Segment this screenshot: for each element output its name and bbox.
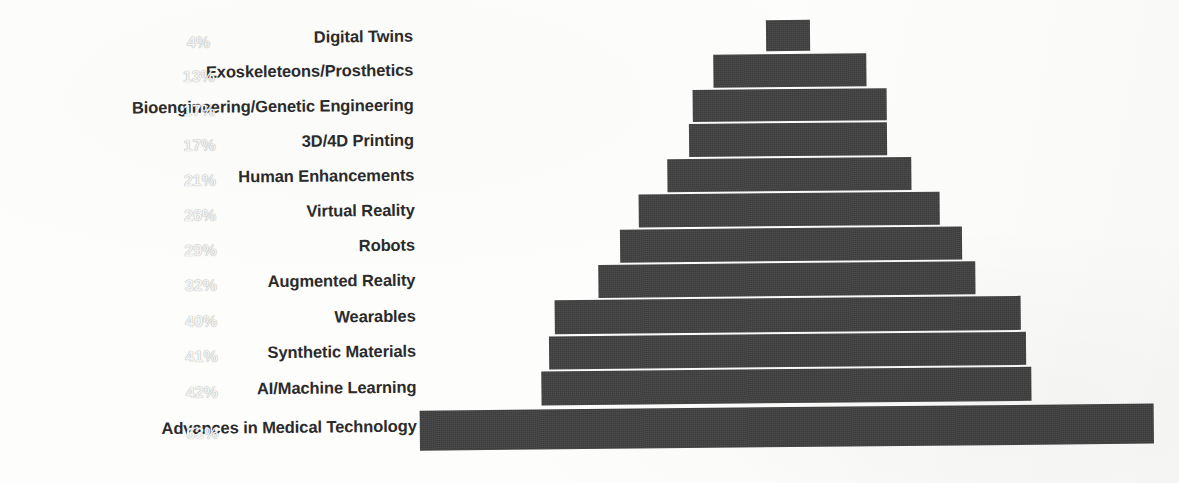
chart-canvas: Digital Twins Exoskeleteons/Prosthetics … bbox=[0, 0, 1179, 483]
category-label-augmented-reality: Augmented Reality bbox=[268, 272, 416, 290]
category-label-robots: Robots bbox=[359, 237, 415, 254]
bar-wearables bbox=[555, 296, 1021, 334]
bar-advances-medical-tech bbox=[420, 404, 1154, 451]
bar-augmented-reality bbox=[598, 261, 975, 298]
category-label-3d-4d-printing: 3D/4D Printing bbox=[302, 132, 414, 150]
category-label-human-enhancements: Human Enhancements bbox=[238, 167, 414, 185]
bar-robots bbox=[620, 226, 962, 262]
category-label-synthetic-materials: Synthetic Materials bbox=[267, 343, 416, 361]
bar-bioengineering bbox=[693, 88, 887, 122]
category-label-exoskeletons: Exoskeleteons/Prosthetics bbox=[206, 62, 414, 80]
category-label-digital-twins: Digital Twins bbox=[314, 28, 413, 45]
bar-3d-4d-printing bbox=[689, 122, 887, 157]
pyramid-chart: Digital Twins Exoskeleteons/Prosthetics … bbox=[0, 0, 1179, 483]
category-label-wearables: Wearables bbox=[334, 308, 415, 325]
category-label-virtual-reality: Virtual Reality bbox=[306, 202, 414, 220]
category-label-bioengineering: Bioengineering/Genetic Engineering bbox=[132, 97, 414, 116]
category-label-ai-machine-learning: AI/Machine Learning bbox=[257, 379, 417, 397]
bar-virtual-reality bbox=[639, 192, 940, 228]
bar-exoskeletons bbox=[713, 53, 866, 87]
bar-synthetic-materials bbox=[549, 332, 1026, 370]
bar-human-enhancements bbox=[667, 157, 911, 192]
bar-ai-machine-learning bbox=[541, 367, 1031, 406]
category-label-advances-medical-tech: Advances in Medical Technology bbox=[161, 418, 416, 437]
bar-digital-twins bbox=[766, 20, 810, 51]
